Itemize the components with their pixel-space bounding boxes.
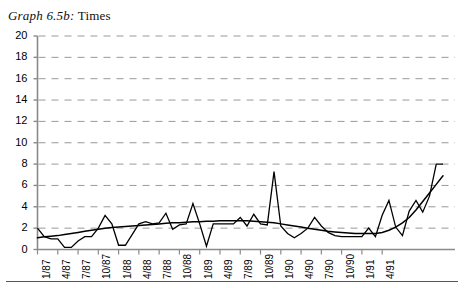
x-tick-label: 7/89	[244, 259, 254, 278]
x-tick-label: 4/88	[143, 259, 153, 278]
x-tick-label: 10/88	[183, 253, 193, 278]
x-tick-label: 7/87	[82, 259, 92, 278]
gridlines-group	[39, 36, 456, 250]
y-tick-label: 4	[6, 201, 28, 212]
x-tick-label: 10/89	[265, 253, 275, 278]
y-tick-label: 8	[6, 158, 28, 169]
y-tick-label: 18	[6, 51, 28, 62]
x-tick-label: 7/90	[325, 259, 335, 278]
times-line-series	[38, 164, 444, 247]
x-tick-label: 4/91	[386, 259, 396, 278]
x-tick-label: 4/89	[224, 259, 234, 278]
line-chart-plot	[0, 0, 467, 288]
y-tick-label: 0	[6, 244, 28, 255]
y-tick-label: 6	[6, 179, 28, 190]
x-tick-label: 1/91	[366, 259, 376, 278]
figure-bottom-rule	[6, 281, 458, 282]
x-tick-label: 10/87	[102, 253, 112, 278]
x-tick-label: 1/90	[285, 259, 295, 278]
x-tick-label: 1/87	[42, 259, 52, 278]
x-tick-label: 1/89	[204, 259, 214, 278]
y-tick-label: 14	[6, 94, 28, 105]
y-tick-label: 12	[6, 115, 28, 126]
x-tick-label: 4/87	[62, 259, 72, 278]
y-tick-label: 10	[6, 137, 28, 148]
figure-graph-6-5b: Graph 6.5b: Times 02468101214161820 1/87…	[0, 0, 467, 288]
x-tick-label: 1/88	[123, 259, 133, 278]
y-tick-label: 16	[6, 73, 28, 84]
x-tick-label: 4/90	[305, 259, 315, 278]
y-tick-label: 20	[6, 30, 28, 41]
x-tick-label: 10/90	[346, 253, 356, 278]
y-tick-label: 2	[6, 222, 28, 233]
x-tick-label: 7/88	[163, 259, 173, 278]
